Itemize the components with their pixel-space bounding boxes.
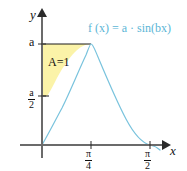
y-tick-label-a-over-2: a 2	[28, 88, 35, 110]
shaded-area-label: A=1	[48, 56, 69, 68]
fraction-numerator: a	[28, 88, 35, 100]
fraction-denominator: 2	[144, 161, 151, 171]
fraction-denominator: 2	[28, 100, 35, 111]
y-axis-arrow-icon	[37, 8, 47, 17]
y-tick-label-a: a	[29, 36, 34, 48]
fraction-numerator: π	[144, 149, 151, 161]
x-axis-label: x	[170, 144, 176, 157]
fraction-denominator: 4	[85, 161, 92, 171]
x-tick-label-pi-over-4: π 4	[85, 149, 92, 170]
y-axis-label: y	[30, 8, 36, 21]
sine-function-figure: y x a a 2 π 4 π 2 A=1 f (x) = a · sin(bx…	[0, 0, 187, 170]
x-tick-label-pi-over-2: π 2	[144, 149, 151, 170]
function-equation-label: f (x) = a · sin(bx)	[88, 22, 171, 34]
fraction-numerator: π	[85, 149, 92, 161]
shaded-area-region	[42, 44, 91, 96]
